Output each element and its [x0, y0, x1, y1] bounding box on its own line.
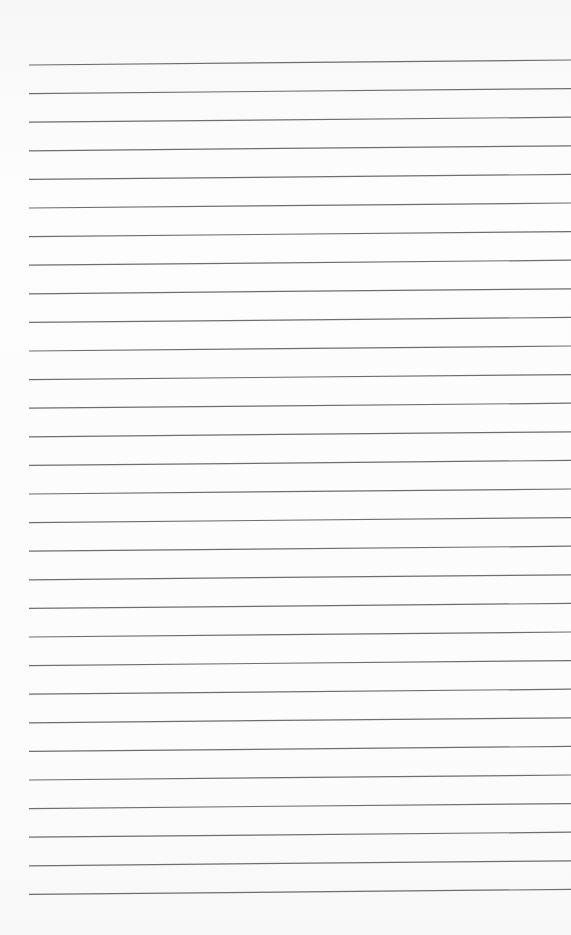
ruled-line	[29, 174, 571, 179]
ruled-line	[29, 289, 571, 294]
ruled-line	[29, 146, 571, 151]
ruled-line	[29, 832, 571, 837]
ruled-line	[29, 460, 571, 465]
ruled-line	[29, 518, 571, 523]
ruled-line	[29, 203, 571, 208]
ruled-lines	[0, 0, 571, 935]
ruled-line	[29, 403, 571, 408]
ruled-line	[29, 632, 571, 637]
ruled-line	[29, 546, 571, 551]
ruled-line	[29, 60, 571, 65]
ruled-line	[29, 804, 571, 809]
ruled-line	[29, 861, 571, 866]
ruled-line	[29, 89, 571, 94]
ruled-line	[29, 346, 571, 351]
ruled-line	[29, 232, 571, 237]
ruled-line	[29, 889, 571, 894]
lined-paper-sheet	[0, 0, 571, 935]
ruled-line	[29, 489, 571, 494]
ruled-line	[29, 575, 571, 580]
ruled-line	[29, 746, 571, 751]
ruled-line	[29, 718, 571, 723]
ruled-line	[29, 317, 571, 322]
ruled-line	[29, 432, 571, 437]
ruled-line	[29, 775, 571, 780]
ruled-line	[29, 661, 571, 666]
ruled-line	[29, 375, 571, 380]
ruled-line	[29, 603, 571, 608]
ruled-line	[29, 689, 571, 694]
ruled-line	[29, 260, 571, 265]
ruled-line	[29, 117, 571, 122]
